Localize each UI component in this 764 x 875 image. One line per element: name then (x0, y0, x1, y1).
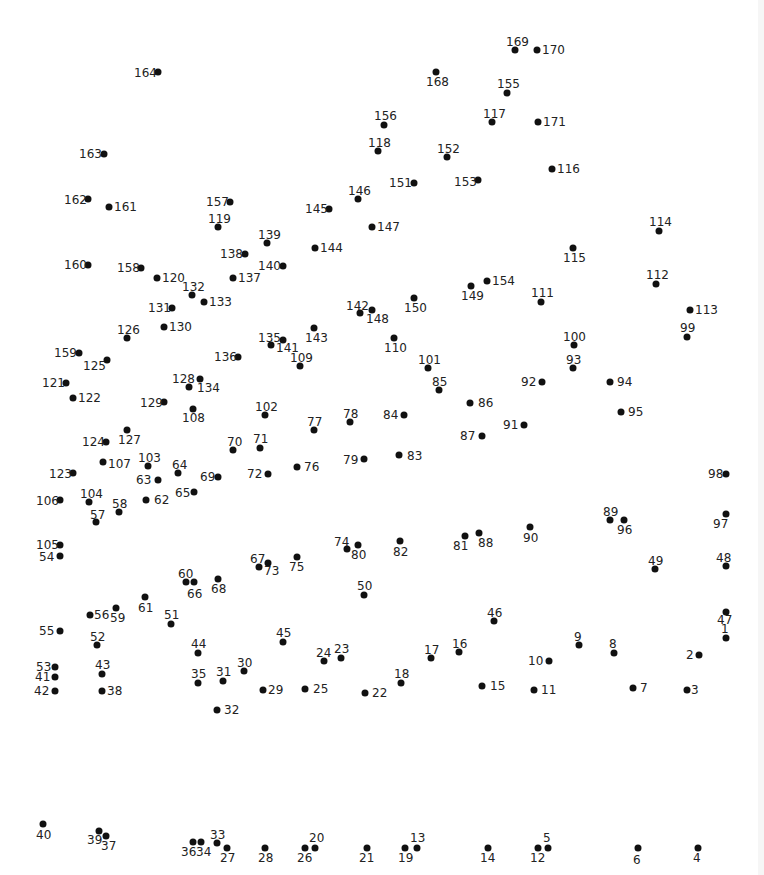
dot-label: 44 (191, 638, 206, 650)
dot-label: 102 (255, 401, 278, 413)
dot-label: 81 (453, 540, 468, 552)
dot-130 (161, 324, 168, 331)
dot-label: 142 (346, 300, 369, 312)
dot-label: 129 (140, 397, 163, 409)
dot-label: 158 (117, 262, 140, 274)
dot-label: 132 (182, 281, 205, 293)
dot-161 (106, 204, 113, 211)
dot-label: 90 (523, 532, 538, 544)
dot-label: 89 (603, 506, 618, 518)
dot-137 (230, 275, 237, 282)
dot-38 (99, 688, 106, 695)
dot-133 (201, 299, 208, 306)
dot-label: 38 (107, 685, 122, 697)
dot-122 (70, 395, 77, 402)
dot-120 (154, 275, 161, 282)
dot-label: 55 (39, 625, 54, 637)
dot-5 (545, 845, 552, 852)
dot-label: 58 (112, 498, 127, 510)
dot-label: 97 (713, 518, 728, 530)
dot-label: 69 (200, 471, 215, 483)
dot-144 (312, 245, 319, 252)
dot-label: 54 (39, 551, 54, 563)
dot-label: 95 (628, 406, 643, 418)
dot-label: 128 (172, 373, 195, 385)
dot-label: 40 (36, 829, 51, 841)
dot-label: 108 (182, 412, 205, 424)
dot-label: 154 (492, 275, 515, 287)
dot-label: 45 (276, 627, 291, 639)
dot-label: 125 (83, 360, 106, 372)
dot-label: 18 (394, 668, 409, 680)
dot-label: 39 (87, 834, 102, 846)
dot-label: 76 (304, 461, 319, 473)
dot-label: 157 (206, 196, 229, 208)
dot-label: 68 (211, 583, 226, 595)
dot-label: 155 (497, 78, 520, 90)
dot-label: 85 (432, 376, 447, 388)
dot-label: 161 (114, 201, 137, 213)
dot-label: 77 (307, 416, 322, 428)
dot-label: 104 (80, 488, 103, 500)
dot-label: 99 (680, 322, 695, 334)
dot-label: 117 (483, 108, 506, 120)
dot-label: 51 (164, 609, 179, 621)
dot-147 (369, 224, 376, 231)
dot-113 (687, 307, 694, 314)
dot-label: 136 (214, 351, 237, 363)
dot-label: 151 (389, 177, 412, 189)
dot-to-dot-puzzle: 1234567891011121314151617181920212223242… (0, 0, 764, 875)
dot-94 (607, 379, 614, 386)
dot-label: 9 (574, 631, 582, 643)
dot-label: 113 (695, 304, 718, 316)
dot-label: 42 (34, 685, 49, 697)
dot-label: 150 (404, 302, 427, 314)
dot-label: 138 (220, 248, 243, 260)
dot-label: 83 (407, 450, 422, 462)
dot-label: 170 (542, 44, 565, 56)
dot-label: 53 (36, 661, 51, 673)
dot-84 (401, 412, 408, 419)
dot-label: 11 (541, 684, 556, 696)
dot-label: 159 (54, 347, 77, 359)
dot-134 (186, 384, 193, 391)
dot-label: 126 (117, 324, 140, 336)
dot-label: 156 (374, 110, 397, 122)
dot-label: 143 (305, 332, 328, 344)
dot-label: 134 (197, 382, 220, 394)
dot-69 (215, 474, 222, 481)
dot-label: 67 (250, 553, 265, 565)
dot-label: 21 (359, 852, 374, 864)
dot-label: 87 (460, 430, 475, 442)
dot-label: 25 (313, 683, 328, 695)
dot-label: 64 (172, 459, 187, 471)
dot-label: 96 (617, 524, 632, 536)
dot-label: 70 (227, 436, 242, 448)
dot-label: 171 (543, 116, 566, 128)
dot-label: 20 (309, 832, 324, 844)
dot-label: 133 (209, 296, 232, 308)
dot-label: 22 (372, 687, 387, 699)
dot-label: 30 (237, 657, 252, 669)
dot-label: 24 (316, 647, 331, 659)
dot-53 (52, 664, 59, 671)
dot-label: 65 (175, 487, 190, 499)
dot-label: 14 (480, 852, 495, 864)
dot-label: 12 (530, 852, 545, 864)
dot-label: 162 (64, 194, 87, 206)
dot-label: 43 (95, 659, 110, 671)
dot-7 (630, 685, 637, 692)
dot-154 (484, 278, 491, 285)
dot-label: 26 (297, 852, 312, 864)
dot-label: 50 (357, 580, 372, 592)
dot-label: 140 (258, 260, 281, 272)
dot-label: 119 (208, 213, 231, 225)
dot-label: 163 (79, 148, 102, 160)
dot-66 (191, 579, 198, 586)
dot-label: 115 (563, 252, 586, 264)
dot-32 (214, 707, 221, 714)
dot-label: 148 (366, 313, 389, 325)
dot-label: 10 (528, 655, 543, 667)
dot-label: 75 (289, 561, 304, 573)
dot-label: 71 (253, 433, 268, 445)
